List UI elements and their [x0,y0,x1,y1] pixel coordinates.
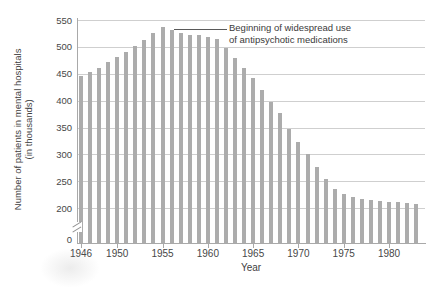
x-tick-label-1955: 1955 [146,249,180,259]
bar-1981 [396,202,400,243]
bar-1962 [224,48,228,243]
x-axis-label: Year [77,262,425,273]
y-axis-label-line2: (in thousands) [23,99,34,159]
bar-1952 [133,46,137,243]
bar-1966 [260,90,264,243]
bar-1947 [88,72,92,243]
annotation-leader-line [174,29,227,30]
bar-1974 [333,189,337,243]
bar-1961 [215,39,219,243]
x-tick-label-1946: 1946 [64,249,98,259]
annotation-line2: of antipsychotic medications [229,34,348,45]
bar-1964 [242,68,246,243]
y-axis-label: Number of patients in mental hospitals (… [12,44,35,214]
bar-1978 [369,200,373,243]
bar-1950 [115,57,119,243]
bar-1968 [278,113,282,243]
y-tick-label-250: 250 [42,177,72,186]
y-axis-line [77,18,78,243]
y-tick-label-350: 350 [42,123,72,132]
x-tick-label-1950: 1950 [100,249,134,259]
bar-1976 [351,197,355,243]
y-tick-label-450: 450 [42,69,72,78]
annotation-line1: Beginning of widespread use [229,22,351,33]
bar-1953 [142,40,146,243]
y-tick-label-400: 400 [42,96,72,105]
bar-1980 [387,202,391,243]
bar-1954 [151,33,155,243]
bar-1973 [324,179,328,243]
bar-1969 [287,129,291,243]
bar-1972 [315,167,319,243]
bar-1959 [197,35,201,243]
bar-1983 [414,204,418,243]
bar-1977 [360,199,364,243]
gridline-500 [77,47,425,48]
bar-1970 [296,142,300,243]
x-axis-line [77,243,426,244]
bar-1967 [269,102,273,243]
bar-1951 [124,52,128,243]
y-tick-label-200: 200 [42,204,72,213]
x-tick-label-1960: 1960 [191,249,225,259]
bar-1946 [79,76,83,243]
y-axis-label-line1: Number of patients in mental hospitals [12,49,23,211]
bar-1971 [306,154,310,243]
y-tick-label-550: 550 [42,16,72,25]
x-tick-label-1965: 1965 [236,249,270,259]
x-tick-label-1970: 1970 [281,249,315,259]
annotation: Beginning of widespread use of antipsych… [229,22,351,45]
bar-1948 [97,68,101,243]
y-tick-label-300: 300 [42,150,72,159]
bar-1979 [378,201,382,243]
chart: Number of patients in mental hospitals (… [0,0,447,287]
bar-1960 [206,37,210,243]
bar-1963 [233,58,237,243]
x-tick-label-1980: 1980 [372,249,406,259]
bar-1975 [342,194,346,243]
gridline-550 [77,20,425,21]
bar-1958 [188,35,192,243]
gridline-450 [77,74,425,75]
bar-1982 [405,203,409,243]
bar-1949 [106,62,110,243]
bar-1957 [179,33,183,243]
y-tick-label-500: 500 [42,42,72,51]
bar-1965 [251,78,255,243]
x-tick-label-1975: 1975 [327,249,361,259]
y-tick-label-0: 0 [42,235,72,244]
bar-1956 [170,30,174,243]
bar-1955 [161,27,165,243]
